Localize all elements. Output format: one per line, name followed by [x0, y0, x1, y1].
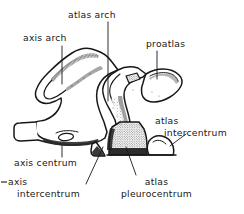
label-proatlas-line1: proatlas — [146, 38, 185, 50]
label-atlas-intercentrum-line1: atlas — [155, 115, 227, 127]
figure-root: axis arch atlas arch proatlas atlas inte… — [0, 0, 244, 214]
label-axis-intercentrum-line1: axis — [8, 176, 80, 188]
label-atlas-intercentrum-line2: intercentrum — [155, 127, 227, 139]
label-axis-intercentrum: axis intercentrum — [8, 176, 80, 199]
label-axis-arch-line1: axis arch — [23, 32, 67, 44]
label-axis-centrum: axis centrum — [14, 157, 77, 169]
label-axis-arch: axis arch — [23, 32, 67, 44]
label-atlas-arch-line1: atlas arch — [68, 9, 116, 21]
label-atlas-pleurocentrum: atlas pleurocentrum — [121, 176, 192, 199]
label-axis-intercentrum-line2: intercentrum — [8, 188, 80, 200]
label-atlas-pleurocentrum-line2: pleurocentrum — [121, 188, 192, 200]
label-atlas-intercentrum: atlas intercentrum — [155, 115, 227, 138]
label-atlas-pleurocentrum-line1: atlas — [121, 176, 192, 188]
axis-centrum-shape — [14, 122, 38, 141]
label-axis-centrum-line1: axis centrum — [14, 157, 77, 169]
label-proatlas: proatlas — [146, 38, 185, 50]
atlas-intercentrum-shape — [148, 136, 174, 155]
label-atlas-arch: atlas arch — [68, 9, 116, 21]
